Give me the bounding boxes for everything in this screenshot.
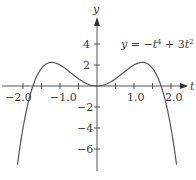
equation-label: y = −t4 + 3t2 — [120, 38, 194, 51]
x-tick-label: −1.0 — [50, 91, 77, 104]
y-tick-label: −6 — [77, 143, 93, 156]
x-tick-label: −2.0 — [5, 91, 32, 104]
x-axis-label: t — [190, 80, 195, 93]
y-tick-label: 4 — [83, 38, 90, 51]
y-axis-label: y — [92, 3, 100, 16]
y-axis-arrow-icon — [94, 17, 100, 26]
y-tick-label: −2 — [77, 101, 93, 114]
y-tick-label: 2 — [83, 59, 90, 72]
x-tick-label: 1.0 — [127, 91, 145, 104]
x-tick-label: 2.0 — [165, 91, 183, 104]
function-plot: t y −2.0 −1.0 1.0 2.0 4 2 −2 −4 −6 y = −… — [0, 0, 196, 180]
y-tick-label: −4 — [77, 122, 93, 135]
x-axis-arrow-icon — [180, 83, 188, 89]
